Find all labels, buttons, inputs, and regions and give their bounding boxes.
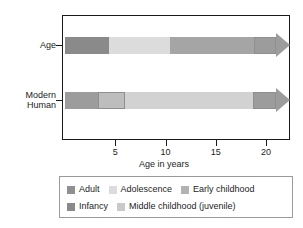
- legend-label: Middle childhood (juvenile): [129, 202, 236, 211]
- legend-label: Infancy: [79, 202, 108, 211]
- legend-row-2: InfancyMiddle childhood (juvenile): [60, 198, 292, 215]
- y-axis-label-modern-human-line2: Human: [4, 100, 56, 110]
- x-tick-label-10: 10: [156, 147, 176, 157]
- x-tick-label-5: 5: [105, 147, 125, 157]
- y-axis-label-age: Age: [4, 40, 56, 50]
- segment-adult: [254, 37, 276, 54]
- legend-item: Early childhood: [181, 185, 255, 194]
- y-tick-modern-human: [56, 100, 63, 101]
- legend-row-1: AdultAdolescenceEarly childhood: [60, 181, 292, 198]
- arrow-head-icon: [276, 33, 290, 57]
- legend-item: Adult: [67, 185, 100, 194]
- x-tick-20: [266, 140, 267, 146]
- segment-adult: [253, 92, 276, 109]
- legend: AdultAdolescenceEarly childhood InfancyM…: [59, 176, 293, 218]
- legend-swatch-icon: [67, 186, 75, 194]
- life-history-stages-chart: Age Modern Human 5 10 15 20 Age in years…: [0, 0, 303, 228]
- x-axis-title: Age in years: [0, 159, 303, 169]
- segment-infancy: [65, 37, 109, 54]
- x-tick-label-15: 15: [206, 147, 226, 157]
- plot-area: [62, 15, 290, 140]
- y-axis-label-modern-human-line1: Modern: [4, 90, 56, 100]
- x-tick-label-20: 20: [256, 147, 276, 157]
- legend-label: Early childhood: [193, 185, 255, 194]
- y-tick-age: [56, 45, 63, 46]
- segment-infancy: [65, 92, 98, 109]
- legend-swatch-icon: [67, 203, 75, 211]
- segment-early_childhood: [98, 92, 125, 109]
- x-tick-5: [115, 140, 116, 146]
- legend-label: Adult: [79, 185, 100, 194]
- legend-swatch-icon: [181, 186, 189, 194]
- x-tick-15: [216, 140, 217, 146]
- legend-item: Infancy: [67, 202, 108, 211]
- arrow-head-icon: [276, 88, 290, 112]
- x-tick-10: [166, 140, 167, 146]
- legend-label: Adolescence: [121, 185, 173, 194]
- y-axis-label-modern-human: Modern Human: [4, 90, 56, 110]
- y-axis-label-age-line1: Age: [4, 40, 56, 50]
- segment-adolescence: [170, 37, 254, 54]
- legend-swatch-icon: [117, 203, 125, 211]
- segment-middle_childhood: [125, 92, 253, 109]
- legend-swatch-icon: [109, 186, 117, 194]
- legend-item: Adolescence: [109, 185, 173, 194]
- legend-item: Middle childhood (juvenile): [117, 202, 236, 211]
- segment-middle_childhood: [109, 37, 169, 54]
